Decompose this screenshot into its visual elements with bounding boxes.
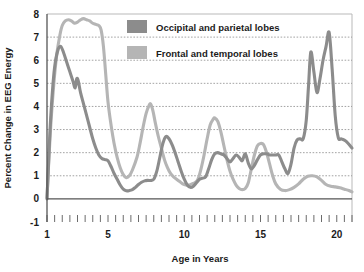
y-tick-label: 4 [33,101,39,112]
y-tick-label: 3 [33,124,39,135]
y-tick-label: 2 [33,147,39,158]
x-tick-label: 5 [105,229,111,240]
chart-container: -1012345678 15101520 Percent Change in E… [0,0,364,272]
x-tick-label: 15 [255,229,267,240]
eeg-line-chart: -1012345678 15101520 Percent Change in E… [0,0,364,272]
x-tick-label: 1 [44,229,50,240]
y-tick-label: 8 [33,9,39,20]
legend-swatch-occipital-parietal [127,20,147,33]
y-tick-label: 1 [33,170,39,181]
legend-label-frontal-temporal: Frontal and temporal lobes [156,48,278,59]
legend-label-occipital-parietal: Occipital and parietal lobes [156,22,280,33]
y-tick-label: 5 [33,78,39,89]
y-tick-label: -1 [30,217,39,228]
y-axis-title: Percent Change in EEG Energy [2,47,13,189]
x-tick-label: 10 [179,229,191,240]
y-tick-label: 7 [33,32,39,43]
x-axis-title: Age in Years [172,253,229,264]
x-axis-minor-ticks [47,215,352,222]
legend-swatch-frontal-temporal [127,46,147,59]
x-tick-label: 20 [331,229,343,240]
y-tick-label: 0 [33,193,39,204]
y-tick-label: 6 [33,55,39,66]
